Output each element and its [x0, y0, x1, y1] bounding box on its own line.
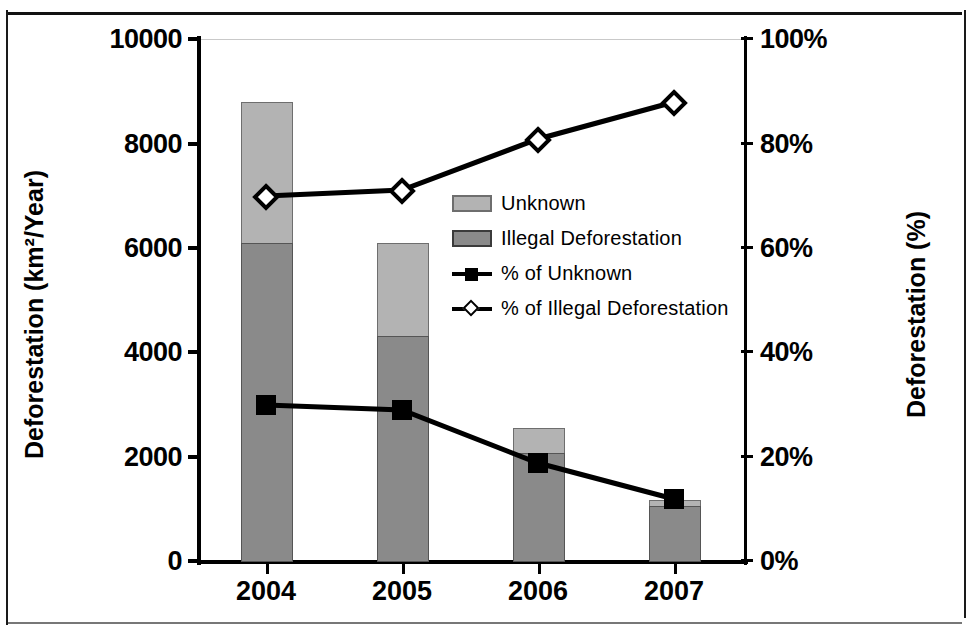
left-tick-2 — [188, 246, 200, 250]
bar-illegal-2005 — [377, 336, 429, 562]
right-tick-label-3: 40% — [760, 337, 813, 368]
left-tick-label-0: 10000 — [0, 24, 182, 55]
left-tick-0 — [188, 37, 200, 41]
plot-top-gridline — [200, 39, 745, 40]
legend-item-illegal-deforestation: Illegal Deforestation — [452, 221, 752, 256]
bar-unknown-2006 — [513, 428, 565, 454]
bar-illegal-2007 — [649, 506, 701, 562]
x-tick-label-2005: 2005 — [372, 576, 432, 607]
bar-unknown-2005 — [377, 243, 429, 337]
right-tick-3 — [741, 350, 753, 353]
x-tick-label-2006: 2006 — [508, 576, 568, 607]
line-pct-illegal — [266, 102, 674, 196]
bar-illegal-2004 — [241, 243, 293, 562]
line-pct-unknown — [266, 405, 674, 499]
chart: 10000 8000 6000 4000 2000 0 100% 80% 60%… — [0, 0, 970, 633]
legend-item-unknown: Unknown — [452, 186, 752, 221]
left-tick-3 — [188, 350, 200, 354]
legend-swatch-unknown-icon — [452, 195, 492, 212]
right-axis-title: Deforestation (%) — [902, 105, 931, 525]
legend-swatch-illegal-icon — [452, 230, 492, 247]
x-tick-label-2004: 2004 — [236, 576, 296, 607]
right-tick-label-2: 60% — [760, 233, 813, 264]
right-tick-label-5: 0% — [760, 546, 798, 577]
legend-label-pct-unknown: % of Unknown — [501, 262, 632, 285]
bar-illegal-2006 — [513, 453, 565, 562]
bottom-tick-3 — [674, 563, 677, 574]
legend-label-unknown: Unknown — [501, 192, 586, 215]
left-axis-line — [197, 36, 201, 565]
bottom-tick-1 — [402, 563, 405, 574]
legend: Unknown Illegal Deforestation % of Unkno… — [452, 186, 752, 326]
bar-unknown-2004 — [241, 102, 293, 244]
left-tick-label-5: 0 — [0, 546, 182, 577]
marker-diamond-2006 — [527, 129, 549, 151]
right-tick-1 — [741, 142, 753, 145]
right-tick-5 — [741, 559, 753, 562]
legend-line-square-icon — [452, 265, 492, 282]
left-tick-1 — [188, 142, 200, 146]
legend-item-pct-illegal: % of Illegal Deforestation — [452, 291, 752, 326]
legend-label-pct-illegal: % of Illegal Deforestation — [501, 297, 729, 320]
x-tick-label-2007: 2007 — [644, 576, 704, 607]
legend-line-diamond-icon — [452, 300, 492, 317]
right-tick-4 — [741, 455, 753, 458]
right-tick-label-4: 20% — [760, 442, 813, 473]
left-tick-4 — [188, 455, 200, 459]
left-axis-title: Deforestation (km²/Year) — [20, 105, 49, 525]
marker-diamond-2007 — [663, 92, 685, 114]
right-tick-0 — [741, 37, 753, 40]
legend-label-illegal-deforestation: Illegal Deforestation — [501, 227, 682, 250]
marker-diamond-2005 — [391, 180, 413, 202]
legend-item-pct-unknown: % of Unknown — [452, 256, 752, 291]
right-tick-label-0: 100% — [760, 24, 827, 55]
left-tick-5 — [188, 559, 200, 563]
bottom-tick-0 — [266, 563, 269, 574]
bottom-tick-2 — [538, 563, 541, 574]
right-tick-label-1: 80% — [760, 129, 813, 160]
